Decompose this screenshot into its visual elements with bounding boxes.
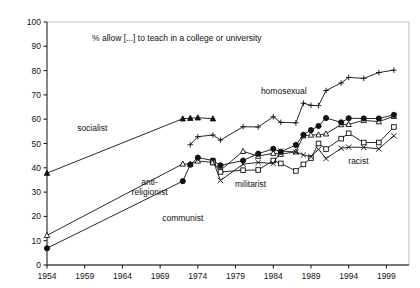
x-tick-label: 1979: [226, 271, 245, 281]
x-tick-label: 1994: [339, 271, 358, 281]
chart-container: 0102030405060708090100 19541959196419691…: [0, 0, 420, 288]
series-label-socialist: socialist: [77, 123, 108, 133]
axis-ticks: [44, 22, 387, 269]
series-label-militarist: militarist: [235, 179, 267, 189]
series-label-racist: racist: [348, 156, 369, 166]
series-label-communist: communist: [162, 213, 204, 223]
y-tick-label: 70: [32, 90, 42, 100]
x-tick-label: 1959: [75, 271, 94, 281]
series-racist: [210, 133, 396, 183]
data-series-group: [44, 67, 396, 251]
chart-title: % allow [...] to teach in a college or u…: [92, 33, 262, 43]
y-tick-label: 0: [36, 260, 41, 270]
y-tick-label: 50: [32, 139, 42, 149]
x-tick-label: 1954: [38, 271, 57, 281]
x-tick-label: 1964: [113, 271, 132, 281]
line-chart-svg: 0102030405060708090100 19541959196419691…: [0, 0, 420, 288]
plot-frame: [47, 22, 409, 265]
x-tick-label: 1989: [301, 271, 320, 281]
x-tick-label: 1974: [188, 271, 207, 281]
y-tick-label: 40: [32, 163, 42, 173]
x-tick-label: 1984: [264, 271, 283, 281]
y-tick-label: 20: [32, 211, 42, 221]
x-tick-label: 1969: [151, 271, 170, 281]
x-tick-label: 1999: [377, 271, 396, 281]
y-tick-label: 80: [32, 66, 42, 76]
y-tick-label: 60: [32, 114, 42, 124]
y-tick-label: 30: [32, 187, 42, 197]
series-homosexual: [187, 67, 396, 147]
x-axis-tick-labels: 1954195919641969197419791984198919941999: [38, 271, 397, 281]
series-label-anti-religionist: anti-: [141, 177, 158, 187]
series-annotation-labels: socialisthomosexualanti-religionistcommu…: [77, 86, 369, 223]
y-tick-label: 10: [32, 236, 42, 246]
y-tick-label: 90: [32, 41, 42, 51]
series-label-homosexual: homosexual: [261, 86, 307, 96]
y-axis-tick-labels: 0102030405060708090100: [27, 17, 41, 270]
series-label-anti-religionist-line2: religionist: [132, 187, 169, 197]
y-tick-label: 100: [27, 17, 41, 27]
